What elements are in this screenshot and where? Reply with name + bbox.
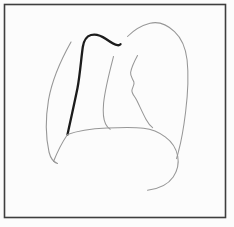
figure-page (0, 0, 234, 227)
chest-xray-line-drawing (0, 0, 234, 227)
figure-border-frame (5, 5, 226, 218)
